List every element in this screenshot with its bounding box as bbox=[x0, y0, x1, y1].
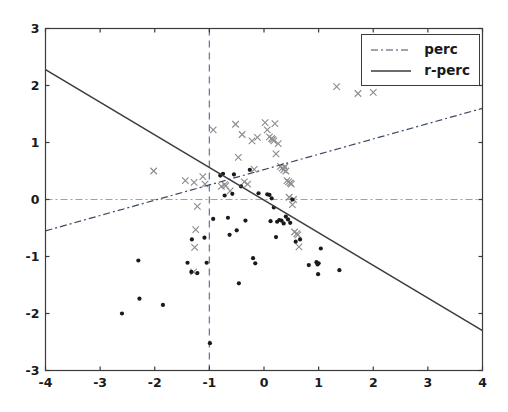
data-point-dot bbox=[319, 246, 323, 250]
data-point-dot bbox=[136, 258, 140, 262]
data-point-cross bbox=[272, 120, 279, 127]
data-point-dot bbox=[270, 196, 274, 200]
data-point-dot bbox=[251, 256, 255, 260]
x-tick-label: 2 bbox=[369, 377, 378, 390]
data-point-cross bbox=[244, 181, 251, 188]
data-point-cross bbox=[150, 168, 157, 175]
y-tick-label: 3 bbox=[31, 22, 40, 35]
x-tick-label: -4 bbox=[39, 377, 53, 390]
data-point-dot bbox=[237, 281, 241, 285]
data-point-dot bbox=[205, 261, 209, 265]
legend-line-sample bbox=[369, 64, 413, 78]
data-point-cross bbox=[264, 127, 271, 134]
data-point-dot bbox=[307, 263, 311, 267]
data-point-dot bbox=[120, 311, 124, 315]
x-tick-label: 1 bbox=[314, 377, 323, 390]
legend-entry-perc[interactable]: perc bbox=[362, 39, 479, 60]
data-point-cross bbox=[241, 179, 248, 186]
y-tick-label: -3 bbox=[26, 364, 40, 377]
x-tick-label: 4 bbox=[478, 377, 487, 390]
data-point-dot bbox=[268, 219, 272, 223]
data-point-cross bbox=[182, 177, 189, 184]
data-point-cross bbox=[210, 127, 217, 134]
data-point-cross bbox=[191, 244, 198, 251]
figure-canvas: -4-3-2-101234-3-2-10123 percr-perc bbox=[0, 0, 508, 412]
data-point-dot bbox=[202, 236, 206, 240]
y-tick-label: 1 bbox=[31, 136, 40, 149]
data-point-cross bbox=[273, 151, 280, 158]
data-point-dot bbox=[294, 240, 298, 244]
data-point-dot bbox=[298, 237, 302, 241]
fit-line-perc bbox=[46, 108, 483, 231]
legend-label: perc bbox=[424, 43, 457, 57]
data-point-dot bbox=[190, 237, 194, 241]
data-point-dot bbox=[316, 272, 320, 276]
data-point-cross bbox=[254, 134, 261, 141]
data-point-cross bbox=[249, 138, 256, 145]
data-point-dot bbox=[256, 191, 260, 195]
data-point-dot bbox=[230, 192, 234, 196]
data-point-cross bbox=[296, 244, 303, 251]
data-point-dot bbox=[282, 221, 286, 225]
data-point-dot bbox=[243, 218, 247, 222]
legend-entry-r-perc[interactable]: r-perc bbox=[362, 60, 479, 81]
data-point-dot bbox=[235, 228, 239, 232]
data-point-dot bbox=[137, 297, 141, 301]
data-point-dot bbox=[337, 268, 341, 272]
data-point-cross bbox=[200, 173, 207, 180]
data-point-dot bbox=[288, 221, 292, 225]
x-tick-label: -2 bbox=[148, 377, 162, 390]
fit-line-r-perc bbox=[46, 70, 483, 331]
data-point-dot bbox=[274, 235, 278, 239]
x-tick-label: 3 bbox=[424, 377, 433, 390]
data-point-dot bbox=[195, 271, 199, 275]
x-tick-label: -3 bbox=[93, 377, 107, 390]
data-point-dot bbox=[208, 341, 212, 345]
data-point-dot bbox=[232, 172, 236, 176]
legend-label: r-perc bbox=[424, 64, 470, 78]
data-point-dot bbox=[226, 216, 230, 220]
data-point-dot bbox=[161, 303, 165, 307]
data-point-dot bbox=[189, 270, 193, 274]
legend-line-sample bbox=[369, 43, 413, 57]
data-point-dot bbox=[223, 193, 227, 197]
data-point-cross bbox=[370, 89, 377, 96]
y-tick-label: 2 bbox=[31, 79, 40, 92]
data-point-dot bbox=[253, 261, 257, 265]
data-point-dot bbox=[211, 217, 215, 221]
data-point-cross bbox=[355, 90, 362, 97]
y-tick-label: -2 bbox=[26, 307, 40, 320]
data-point-cross bbox=[192, 226, 199, 233]
data-point-cross bbox=[232, 121, 239, 128]
data-point-cross bbox=[262, 119, 269, 126]
series-class-dot bbox=[120, 168, 342, 345]
data-point-dot bbox=[185, 261, 189, 265]
data-point-dot bbox=[227, 233, 231, 237]
data-point-dot bbox=[317, 261, 321, 265]
data-point-dot bbox=[248, 168, 252, 172]
legend[interactable]: percr-perc bbox=[361, 34, 480, 86]
data-point-cross bbox=[235, 154, 242, 161]
x-tick-label: -1 bbox=[202, 377, 216, 390]
data-point-cross bbox=[333, 83, 340, 90]
data-point-cross bbox=[251, 166, 258, 173]
data-point-dot bbox=[290, 197, 294, 201]
x-tick-label: 0 bbox=[260, 377, 269, 390]
y-tick-label: -1 bbox=[26, 250, 40, 263]
data-point-cross bbox=[194, 203, 201, 210]
data-point-cross bbox=[239, 131, 246, 138]
y-tick-label: 0 bbox=[31, 193, 40, 206]
data-point-cross bbox=[191, 179, 198, 186]
